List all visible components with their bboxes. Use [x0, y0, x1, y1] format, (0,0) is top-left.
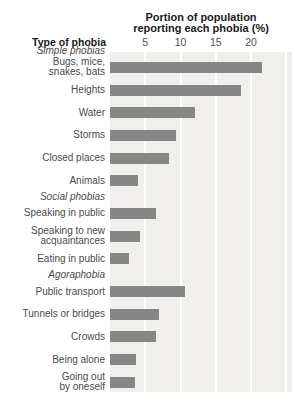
bar-going-out-by-oneself [110, 377, 135, 388]
category-label: Animals [0, 169, 110, 192]
phobia-bar-chart: Portion of population reporting each pho… [0, 0, 295, 410]
bar-row-storms: Storms [0, 124, 295, 147]
bar-cell [110, 56, 295, 79]
bar-cell [110, 124, 295, 147]
category-label: Going out by oneself [0, 371, 110, 394]
bar-being-alone [110, 354, 136, 365]
bar-storms [110, 130, 176, 141]
bar-speaking-in-public [110, 208, 156, 219]
bar-animals [110, 175, 138, 186]
bar-row-bugs-mice-snakes-bats: Bugs, mice, snakes, bats [0, 56, 295, 79]
bar-row-speaking-to-new-acquaintances: Speaking to new acquaintances [0, 225, 295, 248]
bar-tunnels-or-bridges [110, 309, 159, 320]
bar-cell [110, 280, 295, 303]
category-label: Closed places [0, 147, 110, 170]
bar-row-public-transport: Public transport [0, 280, 295, 303]
bar-bugs-mice-snakes-bats [110, 62, 262, 73]
bar-cell [110, 326, 295, 349]
bar-row-going-out-by-oneself: Going out by oneself [0, 371, 295, 394]
bar-eating-in-public [110, 253, 129, 264]
bar-row-closed-places: Closed places [0, 147, 295, 170]
category-label: Speaking in public [0, 202, 110, 225]
section-row-simple-phobias: Simple phobias [0, 46, 295, 56]
bar-row-crowds: Crowds [0, 326, 295, 349]
category-label: Water [0, 101, 110, 124]
section-row-social-phobias: Social phobias [0, 192, 295, 202]
bar-cell [110, 371, 295, 394]
bar-cell [110, 101, 295, 124]
bar-row-tunnels-or-bridges: Tunnels or bridges [0, 303, 295, 326]
bar-cell [110, 202, 295, 225]
bar-cell [110, 348, 295, 371]
section-label: Social phobias [0, 192, 110, 202]
bar-heights [110, 85, 241, 96]
category-label: Storms [0, 124, 110, 147]
chart-title: Portion of population reporting each pho… [110, 12, 292, 34]
bar-cell [110, 303, 295, 326]
bar-row-speaking-in-public: Speaking in public [0, 202, 295, 225]
category-label: Being alone [0, 348, 110, 371]
category-label: Bugs, mice, snakes, bats [0, 56, 110, 79]
category-label: Tunnels or bridges [0, 303, 110, 326]
bar-water [110, 107, 195, 118]
bar-cell [110, 248, 295, 271]
bar-cell [110, 169, 295, 192]
bar-row-water: Water [0, 101, 295, 124]
category-label: Speaking to new acquaintances [0, 225, 110, 248]
bar-cell [110, 147, 295, 170]
bar-row-eating-in-public: Eating in public [0, 248, 295, 271]
category-label: Eating in public [0, 248, 110, 271]
chart-title-line-2: reporting each phobia (%) [110, 23, 292, 34]
section-label: Agoraphobia [0, 270, 110, 280]
bar-speaking-to-new-acquaintances [110, 231, 140, 242]
bar-cell [110, 79, 295, 102]
category-label: Heights [0, 79, 110, 102]
category-label: Public transport [0, 280, 110, 303]
chart-rows: Simple phobiasBugs, mice, snakes, batsHe… [0, 46, 295, 394]
bar-crowds [110, 331, 156, 342]
section-row-agoraphobia: Agoraphobia [0, 270, 295, 280]
category-label: Crowds [0, 326, 110, 349]
section-label: Simple phobias [0, 46, 110, 56]
bar-closed-places [110, 153, 169, 164]
bar-row-heights: Heights [0, 79, 295, 102]
bar-cell [110, 225, 295, 248]
bar-row-animals: Animals [0, 169, 295, 192]
bar-row-being-alone: Being alone [0, 348, 295, 371]
bar-public-transport [110, 286, 185, 297]
